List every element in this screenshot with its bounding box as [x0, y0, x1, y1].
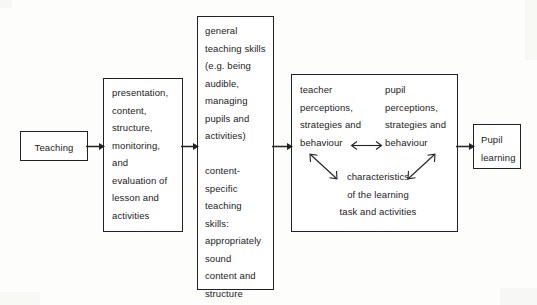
node-classroom-processes-teacher-column: teacher perceptions, strategies and beha…: [300, 81, 362, 151]
scan-artifact-bottom-left: [0, 292, 40, 305]
node-teaching-activities-label: presentation, content, structure, monito…: [112, 84, 184, 224]
node-classroom-processes-characteristics: characteristics of the learning task and…: [322, 168, 434, 221]
node-teaching-skills-label: general teaching skills (e.g. being audi…: [205, 22, 277, 302]
scan-artifact-top-left: [0, 0, 12, 8]
scan-artifact-top-right: [525, 0, 537, 60]
node-pupil-learning-label: Pupil learning: [481, 131, 525, 166]
scan-artifact-bottom-right: [500, 288, 537, 305]
node-teaching-label: Teaching: [20, 139, 88, 157]
node-classroom-processes-pupil-column: pupil perceptions, strategies and behavi…: [385, 81, 455, 151]
diagram-canvas: Teaching presentation, content, structur…: [0, 0, 537, 305]
